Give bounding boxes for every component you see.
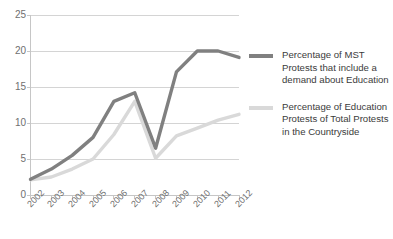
series-line-2 bbox=[31, 101, 240, 179]
legend-item: Percentage of Education Protests of Tota… bbox=[249, 101, 393, 139]
legend-item: Percentage of MST Protests that include … bbox=[249, 49, 393, 87]
y-tick-label: 15 bbox=[0, 82, 26, 92]
plot-area: 0510152025 20022003200420052006200720082… bbox=[0, 0, 248, 239]
y-tick-label: 5 bbox=[0, 154, 26, 164]
y-tick-label: 10 bbox=[0, 118, 26, 128]
legend-label-series-2: Percentage of Education Protests of Tota… bbox=[282, 101, 393, 139]
chart-legend: Percentage of MST Protests that include … bbox=[249, 49, 393, 153]
legend-label-series-1: Percentage of MST Protests that include … bbox=[282, 49, 393, 87]
y-tick-label: 0 bbox=[0, 190, 26, 200]
y-tick-label: 20 bbox=[0, 46, 26, 56]
legend-swatch-series-2 bbox=[249, 106, 273, 110]
series-line-1 bbox=[31, 51, 240, 179]
chart-container: 0510152025 20022003200420052006200720082… bbox=[0, 0, 393, 239]
legend-swatch-series-1 bbox=[249, 54, 273, 58]
y-tick-label: 25 bbox=[0, 10, 26, 20]
